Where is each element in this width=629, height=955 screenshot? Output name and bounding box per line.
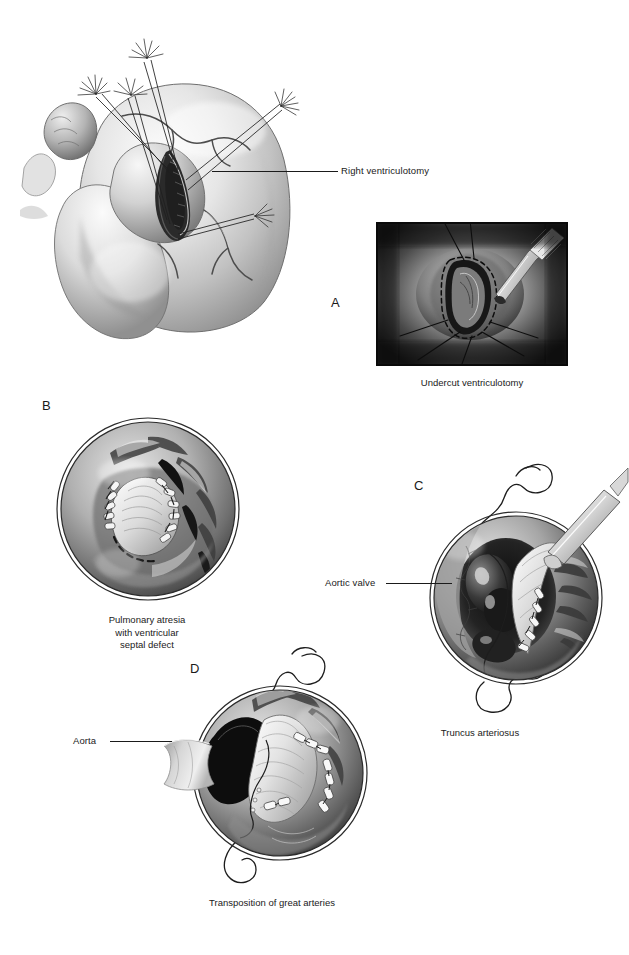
aorta-leader-line (110, 741, 172, 742)
undercut-ventriculotomy-inset (376, 222, 568, 366)
right-ventriculotomy-leader-line (212, 171, 338, 172)
panel-letter-a: A (331, 295, 340, 310)
heart-body (20, 84, 290, 339)
inset-artwork (378, 224, 566, 364)
panel-c-caption: Truncus arteriosus (400, 727, 560, 740)
panel-b-operative-view (52, 413, 244, 605)
panel-letter-b: B (42, 398, 51, 413)
right-ventriculotomy-label: Right ventriculotomy (341, 165, 429, 177)
surgical-figure: A Right ventriculotomy (0, 0, 629, 955)
aortic-valve-leader-line (386, 583, 452, 584)
panel-a-heart-illustration (18, 20, 348, 350)
panel-d-caption: Transposition of great arteries (182, 897, 362, 910)
panel-b-caption: Pulmonary atresia with ventricular septa… (47, 614, 247, 652)
aorta-label: Aorta (73, 735, 96, 747)
aortic-valve-label: Aortic valve (325, 577, 375, 589)
panel-c-operative-view (398, 460, 628, 730)
aorta-stump (164, 740, 214, 790)
undercut-ventriculotomy-caption: Undercut ventriculotomy (372, 377, 572, 390)
panel-d-operative-view (160, 650, 396, 890)
forceps (544, 468, 628, 569)
